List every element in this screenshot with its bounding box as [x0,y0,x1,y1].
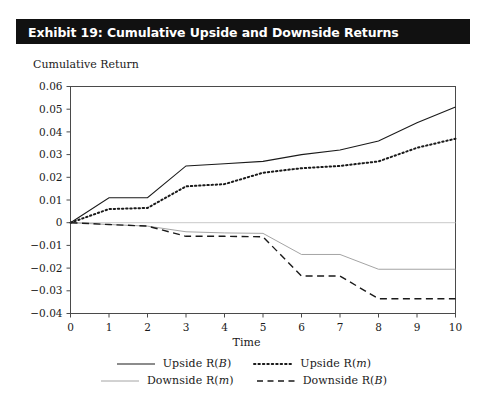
x-axis-tick-label: 9 [414,321,421,333]
legend-entry-downside-r-b: Downside R(B) [256,374,387,387]
legend-line-swatch-solid [100,376,140,386]
x-axis-tick-label: 6 [298,321,305,333]
exhibit-figure: Exhibit 19: Cumulative Upside and Downsi… [0,0,487,414]
y-axis-tick-label: −0.04 [30,307,62,319]
chart-svg: −0.04−0.03−0.02−0.0100.010.020.030.040.0… [0,0,487,414]
legend-row: Upside R(B)Upside R(m) [0,355,487,372]
legend-entry-downside-r-m: Downside R(m) [100,374,234,387]
legend-row: Downside R(m)Downside R(B) [0,372,487,389]
chart-legend: Upside R(B)Upside R(m)Downside R(m)Downs… [0,355,487,389]
x-axis-tick-label: 7 [337,321,344,333]
x-axis-tick-label: 3 [183,321,190,333]
legend-line-swatch-solid [116,359,156,369]
series-line-downside-r-m [71,223,456,270]
x-axis-title-row: Time [0,336,487,349]
legend-entry-label: Upside R(B) [163,357,232,370]
x-axis-title: Time [233,336,261,349]
legend-entry-label: Upside R(m) [300,357,371,370]
plot-frame [71,87,456,314]
x-axis-tick-label: 10 [449,321,462,333]
legend-entry-upside-r-m: Upside R(m) [253,357,371,370]
series-line-upside-r-b [71,107,456,223]
y-axis-tick-label: 0.06 [39,80,63,92]
y-axis-tick-label: 0.03 [39,148,62,160]
series-line-upside-r-m [71,139,456,223]
x-axis-tick-label: 2 [144,321,151,333]
y-axis-tick-label: 0.01 [39,194,62,206]
legend-line-swatch-dotted [253,359,293,369]
y-axis-tick-label: 0.05 [39,103,62,115]
legend-line-swatch-dashed [256,376,296,386]
x-axis-tick-label: 0 [67,321,74,333]
legend-entry-label: Downside R(m) [147,374,234,387]
x-axis-tick-label: 4 [221,321,228,333]
plot-area: −0.04−0.03−0.02−0.0100.010.020.030.040.0… [0,0,487,414]
series-line-downside-r-b [71,223,456,299]
y-axis-tick-label: −0.01 [30,239,62,251]
legend-entry-upside-r-b: Upside R(B) [116,357,232,370]
x-axis-tick-label: 8 [375,321,382,333]
y-axis-tick-label: −0.02 [30,262,62,274]
x-axis-tick-label: 5 [260,321,267,333]
x-axis-tick-label: 1 [106,321,113,333]
y-axis-tick-label: 0.04 [39,126,63,138]
y-axis-tick-label: 0.02 [39,171,62,183]
y-axis-tick-label: 0 [56,216,63,228]
y-axis-tick-label: −0.03 [30,284,62,296]
legend-entry-label: Downside R(B) [303,374,387,387]
